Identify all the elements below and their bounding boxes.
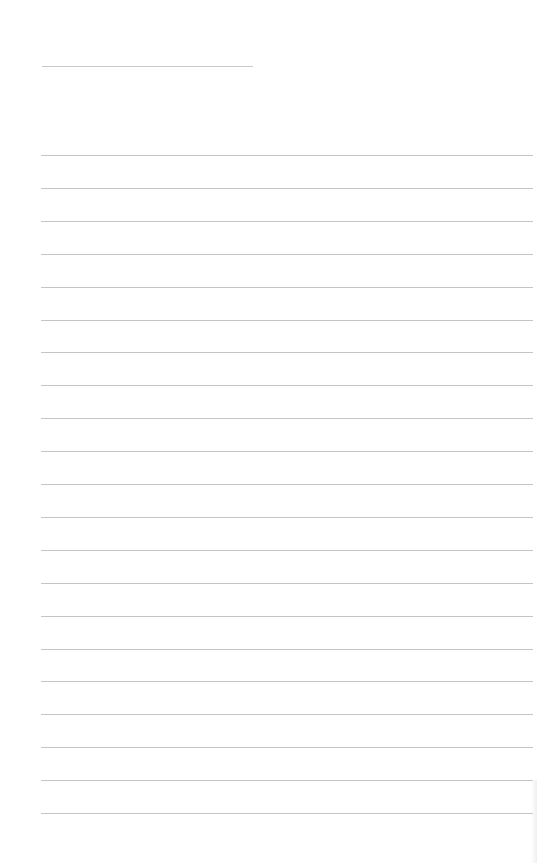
ruled-line bbox=[41, 681, 533, 682]
ruled-line bbox=[41, 352, 533, 353]
ruled-line bbox=[41, 287, 533, 288]
ruled-line bbox=[41, 649, 533, 650]
ruled-line bbox=[41, 385, 533, 386]
ruled-line bbox=[41, 418, 533, 419]
ruled-line bbox=[41, 188, 533, 189]
ruled-line bbox=[41, 813, 533, 814]
ruled-line bbox=[41, 221, 533, 222]
page-edge-shadow bbox=[531, 780, 537, 863]
ruled-line bbox=[41, 714, 533, 715]
title-write-line bbox=[42, 66, 253, 67]
ruled-line bbox=[41, 254, 533, 255]
ruled-line bbox=[41, 451, 533, 452]
lined-paper-page bbox=[0, 0, 537, 863]
ruled-line bbox=[41, 155, 533, 156]
ruled-line bbox=[41, 320, 533, 321]
ruled-line bbox=[41, 517, 533, 518]
ruled-line bbox=[41, 747, 533, 748]
ruled-line bbox=[41, 616, 533, 617]
ruled-line bbox=[41, 550, 533, 551]
ruled-line bbox=[41, 780, 533, 781]
ruled-line bbox=[41, 484, 533, 485]
ruled-line bbox=[41, 583, 533, 584]
